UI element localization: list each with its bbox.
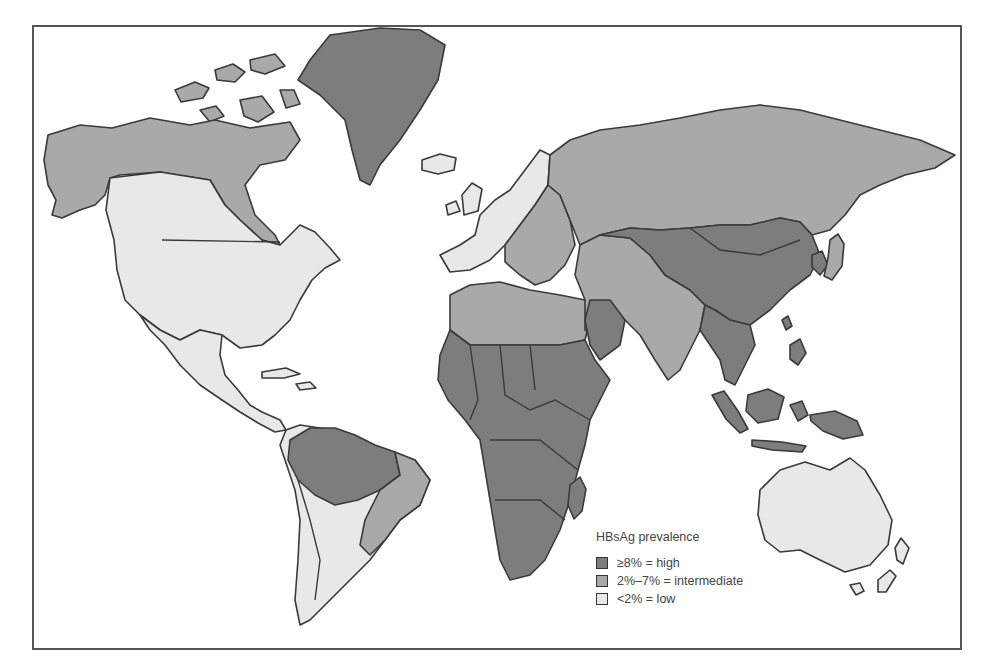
legend-item-low: <2% = low (596, 590, 743, 607)
region-north-africa (450, 282, 590, 345)
legend-swatch-low (596, 593, 608, 605)
region-sub-saharan-africa (438, 330, 610, 580)
region-philippines (782, 316, 806, 365)
legend-item-high: ≥8% = high (596, 554, 743, 571)
legend-label-high: ≥8% = high (617, 556, 680, 570)
region-iceland (422, 154, 456, 174)
legend-label-low: <2% = low (617, 592, 675, 606)
legend-swatch-intermediate (596, 575, 608, 587)
map-legend: HBsAg prevalence ≥8% = high 2%–7% = inte… (596, 530, 743, 608)
region-japan (824, 234, 844, 280)
legend-swatch-high (596, 557, 608, 569)
legend-title: HBsAg prevalence (596, 530, 743, 544)
caribbean-islands (262, 368, 316, 390)
region-australia (758, 458, 892, 572)
legend-item-intermediate: 2%–7% = intermediate (596, 572, 743, 589)
region-tasmania (850, 583, 864, 595)
arctic-islands (175, 54, 300, 122)
region-british-isles (446, 183, 482, 215)
legend-label-intermediate: 2%–7% = intermediate (617, 574, 743, 588)
region-indonesia (712, 389, 863, 452)
world-map (0, 0, 981, 669)
